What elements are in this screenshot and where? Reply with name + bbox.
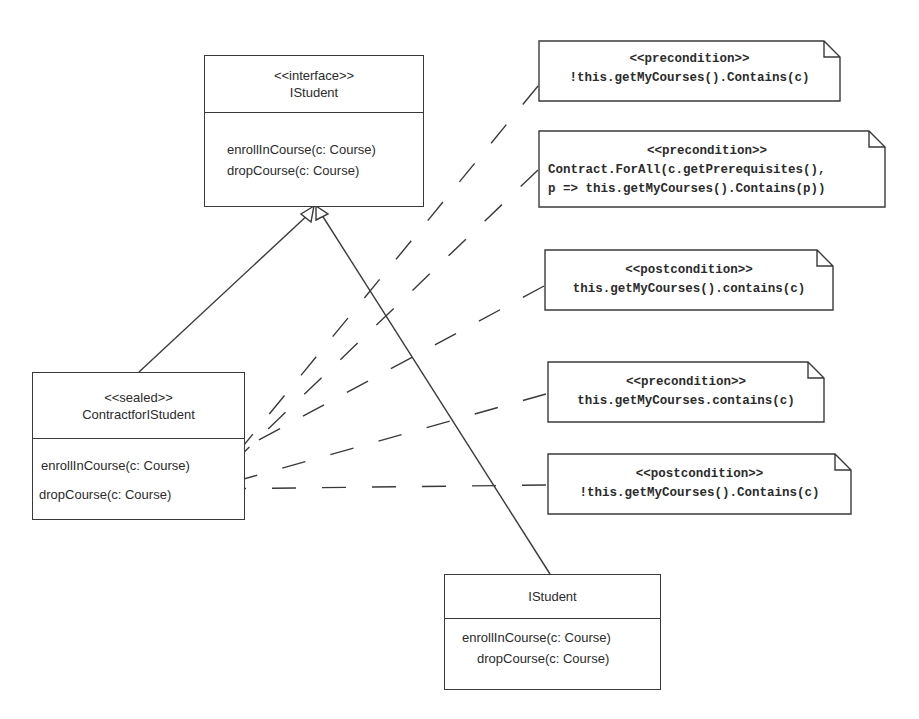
class-header: <<sealed>> ContractforIStudent — [33, 373, 244, 439]
note-line: Contract.ForAll(c.getPrerequisites(), — [548, 161, 826, 180]
precondition-note-3: <<precondition>> this.getMyCourses.conta… — [547, 361, 825, 423]
class-header: <<interface>> IStudent — [205, 56, 423, 113]
class-header: IStudent — [445, 575, 660, 619]
note-line: !this.getMyCourses().Contains(c) — [569, 69, 809, 88]
note-line: p => this.getMyCourses().Contains(p)) — [548, 180, 826, 199]
operation: dropCourse(c: Course) — [462, 648, 660, 669]
note-line: this.getMyCourses().contains(c) — [573, 280, 806, 299]
hollow-arrowhead-icon — [316, 206, 328, 220]
operation: enrollInCourse(c: Course) — [227, 139, 423, 160]
operations-compartment: enrollInCourse(c: Course) dropCourse(c: … — [205, 113, 423, 206]
operations-compartment: enrollInCourse(c: Course) dropCourse(c: … — [33, 439, 244, 519]
operation: dropCourse(c: Course) — [227, 160, 423, 181]
note-line: this.getMyCourses.contains(c) — [577, 392, 795, 411]
note-stereotype: <<precondition>> — [647, 142, 767, 161]
operation: dropCourse(c: Course) — [39, 480, 244, 509]
operation: enrollInCourse(c: Course) — [462, 627, 660, 648]
interface-class-box: <<interface>> IStudent enrollInCourse(c:… — [204, 55, 424, 207]
note-stereotype: <<precondition>> — [629, 50, 749, 69]
operation: enrollInCourse(c: Course) — [39, 451, 244, 480]
class-name: IStudent — [445, 588, 660, 605]
precondition-note-2: <<precondition>> Contract.ForAll(c.getPr… — [538, 130, 886, 208]
operations-compartment: enrollInCourse(c: Course) dropCourse(c: … — [445, 619, 660, 689]
sealed-class-box: <<sealed>> ContractforIStudent enrollInC… — [32, 372, 245, 520]
realization-line-impl — [320, 212, 550, 574]
class-name: ContractforIStudent — [33, 406, 244, 423]
class-name: IStudent — [205, 84, 423, 101]
stereotype-label: <<sealed>> — [33, 389, 244, 406]
note-stereotype: <<postcondition>> — [636, 465, 764, 484]
precondition-note-1: <<precondition>> !this.getMyCourses().Co… — [538, 40, 841, 102]
note-line: !this.getMyCourses().Contains(c) — [579, 484, 819, 503]
uml-diagram: <<interface>> IStudent enrollInCourse(c:… — [0, 0, 919, 719]
realization-line-sealed — [139, 212, 311, 372]
postcondition-note-1: <<postcondition>> this.getMyCourses().co… — [544, 249, 834, 311]
stereotype-label: <<interface>> — [205, 67, 423, 84]
note-stereotype: <<postcondition>> — [625, 261, 753, 280]
postcondition-note-2: <<postcondition>> !this.getMyCourses().C… — [547, 453, 852, 515]
implementation-class-box: IStudent enrollInCourse(c: Course) dropC… — [444, 574, 661, 690]
note-stereotype: <<precondition>> — [626, 373, 746, 392]
anchor-line-note-3 — [244, 286, 544, 448]
